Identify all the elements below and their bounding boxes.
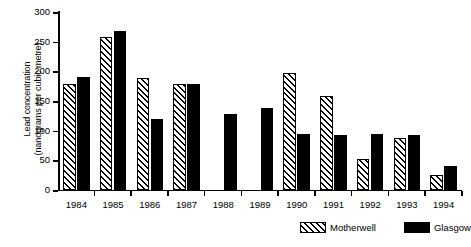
- legend-swatch-motherwell-icon: [300, 222, 326, 233]
- bar-glasgow-1984: [77, 77, 90, 190]
- x-axis-label-1987: 1987: [176, 199, 197, 210]
- bar-motherwell-1984: [63, 84, 76, 190]
- legend-item-motherwell: Motherwell: [300, 222, 376, 233]
- y-axis-tick-mark: [53, 190, 58, 192]
- y-axis-tick-label: 100: [34, 125, 50, 136]
- bar-glasgow-1994: [444, 166, 457, 190]
- x-axis-label-1984: 1984: [66, 199, 87, 210]
- bar-motherwell-1994: [430, 175, 443, 190]
- bar-motherwell-1986: [137, 78, 150, 190]
- bar-glasgow-1993: [408, 135, 421, 190]
- x-axis-tick-mark: [167, 191, 169, 196]
- x-axis-tick-mark: [94, 191, 96, 196]
- legend-item-glasgow: Glasgow: [404, 222, 471, 233]
- bar-glasgow-1985: [114, 31, 127, 190]
- y-axis-tick-label: 200: [34, 65, 50, 76]
- bar-glasgow-1987: [187, 84, 200, 190]
- bar-motherwell-1993: [394, 138, 407, 190]
- bar-motherwell-1985: [100, 37, 113, 190]
- x-axis-label-1988: 1988: [213, 199, 234, 210]
- x-axis-tick-mark: [130, 191, 132, 196]
- x-axis-tick-mark: [461, 191, 463, 196]
- bar-glasgow-1991: [334, 135, 347, 190]
- bar-motherwell-1992: [357, 159, 370, 190]
- legend-label-glasgow: Glasgow: [434, 222, 471, 233]
- legend-label-motherwell: Motherwell: [330, 222, 376, 233]
- x-axis-label-1990: 1990: [286, 199, 307, 210]
- bar-motherwell-1987: [173, 84, 186, 190]
- x-axis-label-1993: 1993: [396, 199, 417, 210]
- y-axis-title-line-1: Lead concentration: [22, 14, 33, 184]
- plot-area: [58, 12, 462, 190]
- y-axis-tick-label: 300: [34, 6, 50, 17]
- x-axis-tick-mark: [277, 191, 279, 196]
- x-axis-tick-mark: [388, 191, 390, 196]
- bar-glasgow-1988: [224, 114, 237, 190]
- x-axis-tick-mark: [241, 191, 243, 196]
- bar-glasgow-1989: [261, 108, 274, 190]
- x-axis-tick-mark: [351, 191, 353, 196]
- legend-swatch-glasgow-icon: [404, 222, 430, 233]
- x-axis-label-1985: 1985: [103, 199, 124, 210]
- bar-motherwell-1990: [283, 73, 296, 190]
- x-axis-tick-mark: [204, 191, 206, 196]
- y-axis-tick-label: 50: [39, 154, 50, 165]
- x-axis-label-1986: 1986: [139, 199, 160, 210]
- x-axis-label-1989: 1989: [249, 199, 270, 210]
- y-axis-tick-label: 150: [34, 95, 50, 106]
- x-axis-tick-mark: [424, 191, 426, 196]
- x-axis-label-1992: 1992: [360, 199, 381, 210]
- y-axis-tick-label: 0: [45, 184, 50, 195]
- y-axis-tick-label: 250: [34, 36, 50, 47]
- x-axis-label-1994: 1994: [433, 199, 454, 210]
- x-axis-label-1991: 1991: [323, 199, 344, 210]
- bar-glasgow-1990: [297, 134, 310, 190]
- chart-legend: Motherwell Glasgow: [300, 222, 471, 233]
- bar-glasgow-1992: [371, 134, 384, 190]
- x-axis-tick-mark: [314, 191, 316, 196]
- bar-glasgow-1986: [151, 119, 164, 190]
- bar-motherwell-1991: [320, 96, 333, 190]
